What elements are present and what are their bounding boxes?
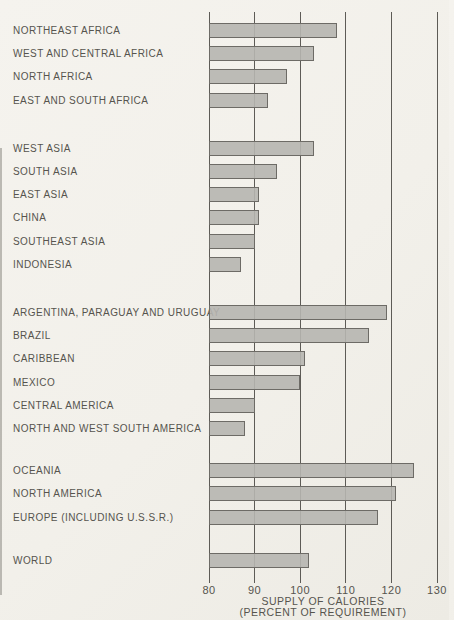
category-label: CARIBBEAN [13,351,75,366]
bar [209,69,287,84]
x-tick-label: 120 [374,584,408,596]
x-axis-title: SUPPLY OF CALORIES (PERCENT OF REQUIREME… [208,596,438,618]
bar [209,305,387,320]
bar [209,164,277,179]
category-label: BRAZIL [13,328,51,343]
category-label: NORTHEAST AFRICA [13,23,120,38]
bar [209,398,255,413]
x-tick-label: 90 [238,584,272,596]
category-label: WEST AND CENTRAL AFRICA [13,46,163,61]
bar [209,421,245,436]
category-label: SOUTH ASIA [13,164,78,179]
x-tick-label: 110 [329,584,363,596]
bar [209,187,259,202]
category-label: CENTRAL AMERICA [13,398,114,413]
x-axis-title-line2: (PERCENT OF REQUIREMENT) [208,607,438,618]
category-label: WORLD [13,553,52,568]
bar [209,210,259,225]
bar [209,553,309,568]
category-label: MEXICO [13,375,55,390]
x-tick-label: 130 [420,584,454,596]
category-label: CHINA [13,210,46,225]
category-label: EUROPE (INCLUDING U.S.S.R.) [13,510,174,525]
bar [209,46,314,61]
bar [209,510,378,525]
category-label: NORTH AMERICA [13,486,102,501]
category-label: NORTH AFRICA [13,69,93,84]
x-tick-label: 80 [192,584,226,596]
bar [209,141,314,156]
bar [209,351,305,366]
bar [209,486,396,501]
gridline-130 [437,12,438,583]
bar [209,328,369,343]
category-label: INDONESIA [13,257,72,272]
bar [209,463,414,478]
bar [209,257,241,272]
category-label: NORTH AND WEST SOUTH AMERICA [13,421,201,436]
category-label: EAST AND SOUTH AFRICA [13,93,148,108]
bar [209,93,268,108]
page-edge-scan-artifact [0,148,2,595]
bar [209,23,337,38]
category-label: WEST ASIA [13,141,71,156]
category-label: EAST ASIA [13,187,68,202]
category-label: ARGENTINA, PARAGUAY AND URUGUAY [13,305,220,320]
x-tick-label: 100 [283,584,317,596]
bar [209,375,300,390]
category-label: SOUTHEAST ASIA [13,234,105,249]
category-label: OCEANIA [13,463,61,478]
bar [209,234,255,249]
